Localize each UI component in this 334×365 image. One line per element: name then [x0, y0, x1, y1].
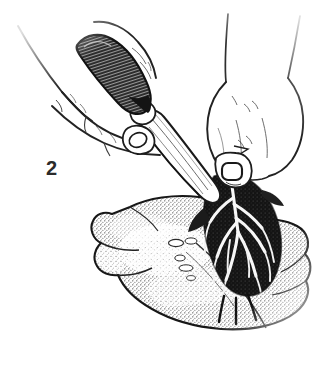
- knife: [77, 35, 221, 203]
- thumbnail-oval: [222, 163, 242, 180]
- step-number-label: 2: [46, 158, 57, 178]
- butchery-step-illustration: [0, 0, 334, 365]
- meat-slab: [80, 185, 325, 340]
- knife-handle: [77, 35, 151, 114]
- right-hand: [207, 14, 303, 187]
- illustration-canvas: 2: [0, 0, 334, 365]
